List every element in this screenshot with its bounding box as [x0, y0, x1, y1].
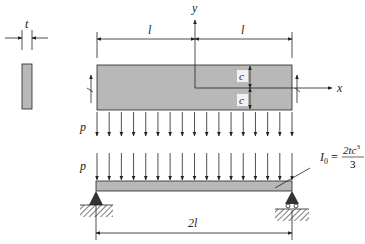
half-depth-top-label: c [239, 70, 244, 82]
svg-text:=: = [331, 150, 338, 164]
roller-support-icon [285, 191, 299, 204]
moment-of-inertia-formula: I0 = 2tc3 3 [319, 143, 364, 170]
beam-elevation: l l y x c c [87, 1, 343, 110]
span-label: 2l [188, 216, 198, 230]
beam-diagram: t l l y x c c p p [0, 0, 365, 244]
y-axis-label: y [191, 1, 198, 15]
simply-supported-beam: 2l [80, 168, 310, 240]
svg-text:3: 3 [350, 158, 356, 170]
cross-section: t [5, 17, 48, 109]
svg-text:I0: I0 [319, 150, 328, 166]
thickness-label: t [25, 17, 29, 31]
distributed-load-bottom [97, 153, 292, 180]
distributed-load-top [97, 112, 292, 136]
pin-support-icon [89, 191, 103, 205]
load-bottom-label: p [79, 159, 86, 173]
load-top-label: p [79, 120, 86, 134]
x-axis-label: x [336, 81, 343, 95]
half-length-left-label: l [148, 23, 152, 37]
svg-text:2tc3: 2tc3 [343, 143, 360, 156]
half-length-right-label: l [241, 23, 245, 37]
half-depth-bottom-label: c [239, 94, 244, 106]
